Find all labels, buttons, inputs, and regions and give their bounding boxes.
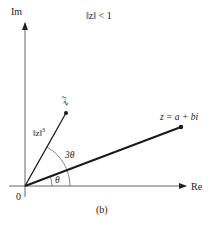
point-z	[179, 125, 183, 129]
real-axis-label: Re	[191, 181, 203, 192]
magnitude-exp: 3	[42, 127, 45, 133]
vector-z	[25, 127, 181, 186]
complex-plane-diagram: Im Re 0 ‖z‖ < 1 z = a + bi z3 ‖z‖3 3θ θ …	[0, 0, 214, 231]
magnitude-base: ‖z‖	[33, 128, 42, 138]
caption: (b)	[96, 204, 108, 216]
title-condition: ‖z‖ < 1	[86, 10, 112, 21]
vector-z-cubed	[25, 113, 66, 186]
theta-label: θ	[55, 175, 60, 185]
origin-label: 0	[16, 191, 21, 202]
theta-arc	[50, 177, 52, 187]
imag-axis-label: Im	[11, 6, 22, 17]
z-point-label: z = a + bi	[159, 112, 199, 122]
point-z-cubed	[64, 111, 68, 115]
three-theta-label: 3θ	[64, 150, 75, 160]
z-cubed-label: z3	[58, 95, 72, 108]
magnitude-cubed-label: ‖z‖3	[33, 127, 45, 138]
